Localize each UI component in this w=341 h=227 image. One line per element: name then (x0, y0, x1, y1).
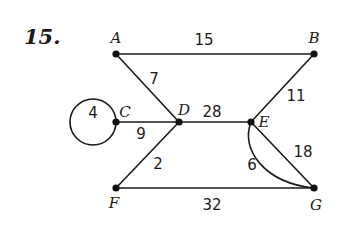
weight-A-D: 7 (149, 70, 159, 88)
weight-C-loop: 4 (88, 104, 98, 122)
weight-F-G: 32 (202, 196, 221, 214)
vertex-label-G: G (310, 196, 322, 214)
vertex-label-C: C (119, 103, 131, 121)
vertex-D (175, 118, 182, 125)
vertex-F (112, 184, 119, 191)
weight-E-G-curved: 6 (247, 156, 257, 174)
weight-D-F: 2 (153, 155, 163, 173)
vertex-E (247, 118, 254, 125)
weight-E-G-straight: 18 (293, 143, 312, 161)
edge-D-F (116, 122, 179, 188)
vertex-label-A: A (109, 29, 122, 47)
weight-E-B: 11 (286, 87, 305, 105)
vertex-label-D: D (177, 101, 190, 119)
weighted-graph-diagram: 15. 15 7 4 9 28 11 2 18 6 32 A B C D E F… (0, 0, 341, 227)
problem-number: 15. (24, 24, 61, 49)
vertex-B (310, 50, 317, 57)
vertex-G (310, 184, 317, 191)
weight-C-D: 9 (136, 125, 146, 143)
vertex-label-F: F (108, 194, 120, 212)
vertex-A (112, 50, 119, 57)
weight-D-E: 28 (202, 103, 221, 121)
vertex-label-B: B (307, 29, 319, 47)
weight-A-B: 15 (194, 31, 213, 49)
vertex-label-E: E (258, 113, 270, 131)
